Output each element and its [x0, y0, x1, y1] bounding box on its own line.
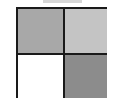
- cell-bottom-right: [65, 55, 107, 98]
- cell-top-right: [65, 9, 107, 53]
- quadrant-grid: [16, 7, 107, 98]
- top-gray-bar: [43, 0, 82, 3]
- cell-top-left: [18, 9, 63, 53]
- cell-bottom-left: [18, 55, 63, 98]
